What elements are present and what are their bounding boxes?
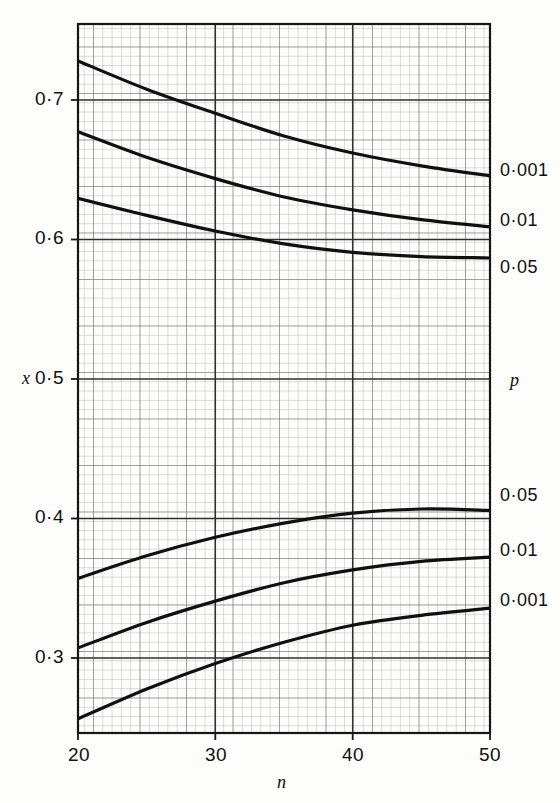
xtick-label-50: 50 <box>473 744 507 766</box>
figure-canvas: 0·7 0·6 0·5 0·4 0·3 x 20 30 40 50 n 0·00… <box>0 0 560 803</box>
ytick-label-0-4: 0·4 <box>6 506 64 528</box>
ytick-label-0-7: 0·7 <box>6 88 64 110</box>
xtick-label-30: 30 <box>199 744 233 766</box>
y-axis-title: x <box>22 368 31 389</box>
p-axis-title: p <box>510 370 520 391</box>
ytick-label-0-5: 0·5 <box>6 367 64 389</box>
curve-label-upper-0-01: 0·01 <box>500 210 538 231</box>
xtick-label-20: 20 <box>62 744 96 766</box>
chart-plot <box>0 0 560 803</box>
curve-label-upper-0-001: 0·001 <box>500 160 549 181</box>
curve-label-upper-0-05: 0·05 <box>500 257 538 278</box>
ytick-label-0-3: 0·3 <box>6 646 64 668</box>
x-axis-title: n <box>277 772 287 793</box>
xtick-label-40: 40 <box>336 744 370 766</box>
curve-label-lower-0-05: 0·05 <box>500 485 538 506</box>
curve-label-lower-0-001: 0·001 <box>500 590 549 611</box>
ytick-label-0-6: 0·6 <box>6 227 64 249</box>
curve-label-lower-0-01: 0·01 <box>500 540 538 561</box>
